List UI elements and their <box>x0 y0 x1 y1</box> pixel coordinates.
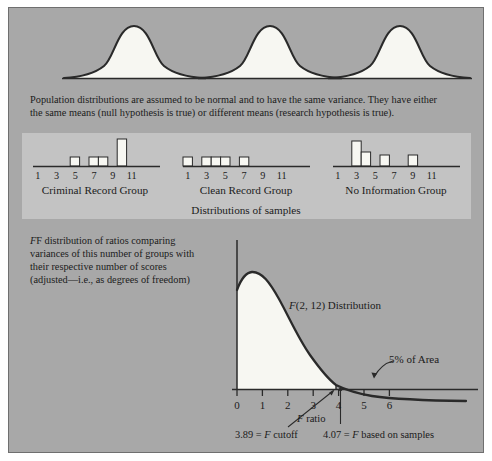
f-ratio-label-rest: ratio <box>303 413 325 424</box>
hist3-tick-9: 9 <box>403 169 423 182</box>
tail-area-label: 5% of Area <box>389 352 439 366</box>
anova-logic-figure: Population distributions are assumed to … <box>0 0 492 461</box>
f-observed-label: 4.07 = F based on samples <box>323 428 434 442</box>
f-cutoff-value: 3.89 = <box>235 429 264 440</box>
f-observed-value: 4.07 = <box>323 429 352 440</box>
hist2-tick-7: 7 <box>234 169 254 182</box>
population-caption-line-1: Population distributions are assumed to … <box>30 93 470 106</box>
hist1-tick-3: 3 <box>47 169 67 182</box>
fdist-note-line-2: variances of this number of groups with <box>30 247 194 261</box>
f-tick-5: 5 <box>355 398 373 412</box>
hist2-tick-1: 1 <box>178 169 198 182</box>
fdist-note-rest-1: F distribution of ratios comparing <box>36 235 175 246</box>
hist2-tick-11: 11 <box>272 169 292 182</box>
f-ratio-axis-label: F ratio <box>297 412 326 426</box>
fdist-note-line-4: (adjusted—i.e., as degrees of freedom) <box>30 273 190 287</box>
hist3-tick-5: 5 <box>365 169 385 182</box>
hist1-tick-9: 9 <box>103 169 123 182</box>
f-curve-label: F(2, 12) Distribution <box>289 298 381 312</box>
f-curve-label-rest: (2, 12) Distribution <box>296 299 381 311</box>
f-cutoff-label: 3.89 = F cutoff <box>235 428 298 442</box>
f-tick-1: 1 <box>253 398 271 412</box>
population-caption-line-2: the same means (null hypothesis is true)… <box>30 106 470 119</box>
hist1-group-label: Criminal Record Group <box>31 183 159 198</box>
f-tick-6: 6 <box>380 398 398 412</box>
hist1-tick-11: 11 <box>122 169 142 182</box>
hist3-tick-7: 7 <box>384 169 404 182</box>
hist2-tick-9: 9 <box>253 169 273 182</box>
figure-frame <box>8 7 484 453</box>
hist1-tick-1: 1 <box>28 169 48 182</box>
hist3-group-label: No Information Group <box>332 183 460 198</box>
f-tick-0: 0 <box>228 398 246 412</box>
hist1-tick-7: 7 <box>84 169 104 182</box>
samples-panel-caption: Distributions of samples <box>0 203 492 218</box>
hist3-tick-1: 1 <box>328 169 348 182</box>
f-cutoff-rest: cutoff <box>271 429 298 440</box>
hist3-tick-11: 11 <box>422 169 442 182</box>
hist2-group-label: Clean Record Group <box>182 183 310 198</box>
fdist-note-line-3: their respective number of scores <box>30 260 167 274</box>
hist2-tick-5: 5 <box>215 169 235 182</box>
fdist-note-line-1: FF distribution of ratios comparing <box>30 234 175 248</box>
f-curve-label-italic: F <box>289 299 296 311</box>
f-observed-rest: based on samples <box>359 429 434 440</box>
hist3-tick-3: 3 <box>347 169 367 182</box>
hist2-tick-3: 3 <box>197 169 217 182</box>
f-tick-2: 2 <box>279 398 297 412</box>
f-tick-4: 4 <box>330 398 348 412</box>
hist1-tick-5: 5 <box>65 169 85 182</box>
f-tick-3: 3 <box>304 398 322 412</box>
